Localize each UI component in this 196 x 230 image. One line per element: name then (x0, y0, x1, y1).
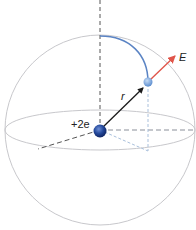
horizontal-axis-left (38, 130, 100, 149)
gauss-sphere-diagram: +2e r E (0, 0, 196, 230)
field-label: E (179, 51, 187, 63)
arc-path (100, 36, 148, 82)
central-charge (94, 125, 107, 138)
charge-label: +2e (71, 118, 90, 130)
radius-label: r (121, 90, 126, 102)
test-point (144, 78, 153, 87)
electric-field-vector (150, 56, 175, 80)
